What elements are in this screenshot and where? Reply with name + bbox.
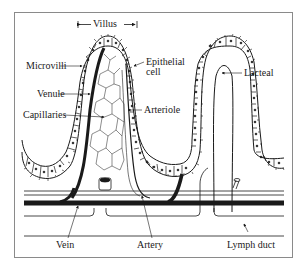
artery-branch <box>168 174 182 202</box>
label-microvilli: Microvilli <box>26 61 67 71</box>
label-epithelial-cell-line2: cell <box>146 67 160 77</box>
lacteal-vessel <box>214 66 233 213</box>
label-artery: Artery <box>137 240 163 250</box>
label-capillaries: Capillaries <box>23 110 66 120</box>
villus-diagram: Villus Microvilli Epithelial cell Venule… <box>0 0 306 267</box>
label-villus: Villus <box>93 19 117 29</box>
diagram-frame <box>15 13 293 258</box>
label-arteriole: Arteriole <box>144 105 180 115</box>
label-venule: Venule <box>37 89 65 99</box>
label-lymph-duct: Lymph duct <box>227 240 275 250</box>
venule-vessel <box>72 48 104 198</box>
label-vein: Vein <box>56 240 74 250</box>
vessel-stubs <box>99 178 240 190</box>
label-lacteal: Lacteal <box>244 68 273 78</box>
diagram-artwork <box>0 0 306 267</box>
